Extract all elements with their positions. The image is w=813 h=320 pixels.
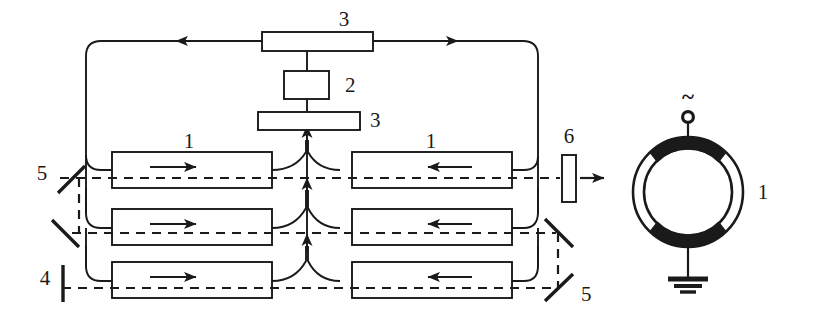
- top-block-chain: [258, 32, 373, 130]
- amplifier-r3-left: [112, 262, 272, 298]
- label-amplifier-left: 1: [184, 129, 195, 153]
- figure-root: ~ 3 2 3 1 1 5: [0, 0, 813, 320]
- label-discharge-tube: 1: [758, 180, 769, 204]
- ground-symbol: [668, 279, 708, 292]
- loop-top-left: [86, 41, 262, 170]
- loop-top-right: [373, 41, 538, 170]
- amplifier-r1-left: [112, 152, 272, 188]
- amplifier-r3-right: [352, 262, 512, 298]
- label-output-window: 6: [564, 124, 575, 148]
- ac-source-symbol: ~: [682, 84, 694, 109]
- mirror-5-upper-right: [545, 219, 573, 247]
- loop-left-mid1: [86, 188, 112, 228]
- discharge-tube-cross-section: ~: [633, 84, 743, 292]
- amplifier-r2-left: [112, 209, 272, 245]
- label-beam-splitter-lower: 3: [370, 108, 381, 132]
- center-riser: [272, 128, 340, 281]
- loop-right-mid1: [512, 188, 538, 228]
- loop-left-mid2: [86, 246, 112, 281]
- label-beam-splitter-top: 3: [339, 7, 350, 31]
- amplifier-r2-right: [352, 209, 512, 245]
- beam-splitter-lower: [258, 112, 360, 130]
- central-module: [284, 71, 329, 99]
- label-central-module: 2: [345, 73, 356, 97]
- output-window: [562, 155, 576, 202]
- label-mirror-5-right: 5: [581, 282, 592, 306]
- terminal-circle: [683, 112, 694, 123]
- output-assembly: [562, 155, 604, 202]
- mirror-5-upper-left: [58, 166, 85, 193]
- label-mirror-4: 4: [40, 266, 51, 290]
- label-mirror-5-left: 5: [37, 161, 48, 185]
- beam-splitter-top: [262, 32, 373, 51]
- label-amplifier-right: 1: [426, 129, 437, 153]
- amplifier-r1-right: [352, 152, 512, 188]
- loop-right-mid2: [512, 246, 538, 281]
- schematic-canvas: ~ 3 2 3 1 1 5: [0, 0, 813, 320]
